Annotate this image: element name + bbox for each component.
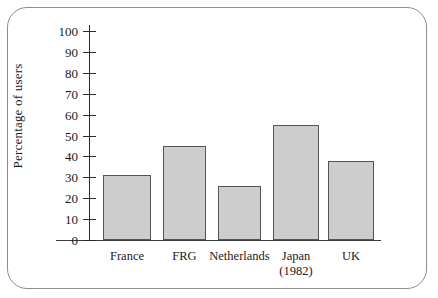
y-tick-30 [83, 177, 96, 178]
y-tick-label: 70 [48, 87, 78, 103]
y-tick-label-wrap-70: 70 [52, 94, 78, 95]
y-tick-label-wrap-80: 80 [52, 73, 78, 74]
y-tick-label: 40 [48, 149, 78, 165]
chart-figure: Percentage of users 01020304050607080901… [0, 0, 438, 298]
y-tick-100 [83, 31, 96, 32]
category-label-uk: UK [306, 249, 396, 264]
y-axis-title: Percentage of users [10, 36, 26, 196]
y-tick-10 [83, 219, 96, 220]
bar-france [103, 175, 151, 240]
bar-chart-plot: Percentage of users 01020304050607080901… [0, 0, 438, 298]
x-axis-line [56, 240, 381, 241]
category-label-text: UK [342, 249, 360, 263]
y-tick-label: 10 [48, 212, 78, 228]
y-tick-label-wrap-100: 100 [52, 31, 78, 32]
y-tick-80 [83, 73, 96, 74]
y-tick-label: 0 [48, 233, 78, 249]
y-tick-20 [83, 198, 96, 199]
y-tick-40 [83, 156, 96, 157]
category-sublabel-text: (1982) [251, 264, 341, 279]
y-tick-label: 50 [48, 129, 78, 145]
y-tick-label-wrap-20: 20 [52, 198, 78, 199]
y-axis-line [89, 25, 90, 241]
bar-uk [328, 161, 374, 240]
bar-netherlands [218, 186, 261, 240]
y-tick-label-wrap-50: 50 [52, 136, 78, 137]
y-tick-label-wrap-90: 90 [52, 52, 78, 53]
y-tick-label: 30 [48, 170, 78, 186]
y-tick-label-wrap-0: 0 [52, 240, 78, 241]
y-tick-label: 100 [48, 24, 78, 40]
y-tick-label: 60 [48, 108, 78, 124]
category-label-text: FRG [172, 249, 196, 263]
y-tick-60 [83, 115, 96, 116]
y-tick-label: 80 [48, 66, 78, 82]
y-tick-label: 90 [48, 45, 78, 61]
y-tick-0 [83, 240, 96, 241]
y-tick-50 [83, 136, 96, 137]
bar-japan [273, 125, 319, 240]
bar-frg [163, 146, 206, 240]
y-tick-label-wrap-40: 40 [52, 156, 78, 157]
y-tick-90 [83, 52, 96, 53]
y-tick-label-wrap-30: 30 [52, 177, 78, 178]
y-tick-70 [83, 94, 96, 95]
y-tick-label: 20 [48, 191, 78, 207]
y-tick-label-wrap-10: 10 [52, 219, 78, 220]
y-tick-label-wrap-60: 60 [52, 115, 78, 116]
